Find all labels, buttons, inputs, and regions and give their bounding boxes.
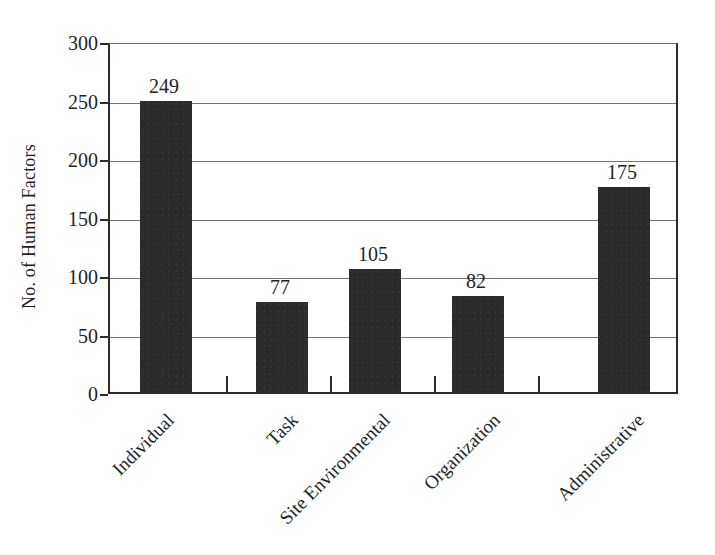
bar-value-task: 77 (254, 277, 306, 297)
x-tick-mark-3 (434, 376, 436, 394)
y-tick-mark-100 (100, 277, 108, 279)
y-tick-mark-150 (100, 219, 108, 221)
bar-administrative[interactable] (598, 187, 650, 392)
y-axis-title: No. of Human Factors (19, 137, 40, 317)
gridline-200 (110, 161, 676, 162)
y-tick-mark-200 (100, 160, 108, 162)
x-label-administrative: Administrative (493, 410, 648, 555)
y-axis-tick-labels: 300 250 200 150 100 50 0 (32, 0, 98, 555)
bar-site-environmental[interactable] (349, 269, 401, 392)
x-tick-mark-1 (226, 376, 228, 394)
bar-value-organization: 82 (450, 271, 502, 291)
gridline-250 (110, 103, 676, 104)
gridline-150 (110, 220, 676, 221)
y-tick-label-150: 150 (38, 209, 98, 229)
x-tick-mark-4 (538, 376, 540, 394)
y-tick-mark-0 (100, 394, 108, 396)
y-tick-mark-250 (100, 102, 108, 104)
y-tick-label-250: 250 (38, 92, 98, 112)
bar-organization[interactable] (452, 296, 504, 392)
bar-individual[interactable] (140, 101, 192, 392)
y-tick-label-100: 100 (38, 267, 98, 287)
bar-task[interactable] (256, 302, 308, 392)
y-tick-label-50: 50 (38, 326, 98, 346)
bar-value-individual: 249 (138, 76, 190, 96)
bar-value-administrative: 175 (596, 162, 648, 182)
x-tick-mark-2 (330, 376, 332, 394)
bar-value-site-environmental: 105 (347, 244, 399, 264)
y-tick-label-200: 200 (38, 150, 98, 170)
y-tick-label-300: 300 (38, 33, 98, 53)
y-tick-mark-50 (100, 336, 108, 338)
y-tick-label-0: 0 (38, 384, 98, 404)
bar-chart: 300 250 200 150 100 50 0 No. of Human Fa… (0, 0, 715, 555)
y-tick-mark-300 (100, 43, 108, 45)
plot-area (108, 43, 678, 394)
